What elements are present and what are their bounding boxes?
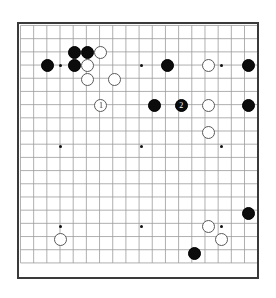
go-diagram: 12 <box>0 0 276 298</box>
go-board[interactable]: 12 <box>17 22 259 279</box>
stone-white[interactable] <box>202 59 215 72</box>
stone-move-number: 1 <box>95 100 106 111</box>
stone-white[interactable] <box>108 73 121 86</box>
star-point <box>59 145 62 148</box>
stone-white[interactable] <box>202 126 215 139</box>
stone-white[interactable] <box>81 73 94 86</box>
stone-black[interactable] <box>68 46 81 59</box>
star-point <box>140 64 143 67</box>
star-point <box>140 225 143 228</box>
stone-move-number: 2 <box>176 100 187 111</box>
stone-black[interactable] <box>81 46 94 59</box>
star-point <box>220 225 223 228</box>
stone-black[interactable] <box>242 207 255 220</box>
stone-white[interactable] <box>202 220 215 233</box>
stone-white-move-1[interactable]: 1 <box>94 99 107 112</box>
stone-black-move-2[interactable]: 2 <box>175 99 188 112</box>
star-point <box>140 145 143 148</box>
stone-black[interactable] <box>68 59 81 72</box>
star-point <box>220 145 223 148</box>
